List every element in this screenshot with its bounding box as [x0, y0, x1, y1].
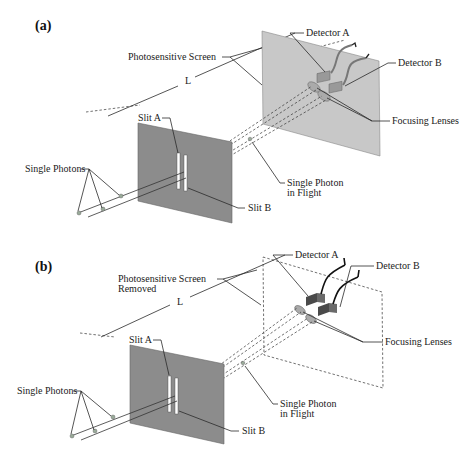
screen-leader-2 [223, 279, 261, 305]
detector-b-label: Detector B [376, 260, 420, 271]
photon-in-flight-label-2: in Flight [287, 187, 321, 198]
distance-label: L [177, 296, 183, 307]
detector-a-label: Detector A [295, 249, 339, 260]
photons-leader-1 [78, 169, 89, 211]
detector-a [306, 258, 345, 306]
lens-leader-2 [314, 321, 363, 342]
panel-a-label: (a) [35, 18, 52, 34]
distance-guide-left [80, 333, 115, 337]
photon-in-flight-label-2: in Flight [280, 408, 314, 419]
slit-a [177, 153, 180, 189]
detector-a-leader [273, 255, 308, 296]
slit-b-label: Slit B [242, 425, 265, 436]
focusing-lens-a [293, 304, 307, 317]
panel-a: (a) L Photosensitive Screen Detector A D… [25, 18, 459, 223]
slit-b [175, 378, 178, 414]
detector-b-label: Detector B [398, 57, 442, 68]
panel-b: (b) L Photosensitive Screen Removed Dete… [17, 249, 452, 444]
photons-leader-1 [71, 391, 81, 434]
photon-3 [111, 415, 115, 419]
photosensitive-screen-label-2: Removed [118, 283, 156, 294]
slit-a [168, 376, 171, 412]
screen-leader-1 [217, 270, 257, 279]
single-photons-label: Single Photons [17, 385, 77, 396]
photon-1 [70, 434, 74, 438]
slit-a-label: Slit A [129, 334, 153, 345]
screen-leader-2 [230, 57, 262, 85]
distance-arrow-left [101, 305, 170, 337]
removed-screen-outline [263, 257, 383, 388]
detector-b [318, 270, 359, 316]
double-slit-diagram: (a) L Photosensitive Screen Detector A D… [0, 0, 474, 458]
photon-in-flight-leader [245, 366, 278, 404]
photosensitive-screen-label: Photosensitive Screen [128, 51, 216, 62]
photon-in-flight-leader [252, 142, 285, 183]
photon-in-flight [241, 361, 245, 365]
slit-b [184, 155, 187, 191]
screen-leader-1 [222, 48, 262, 57]
slit-b-label: Slit B [248, 202, 271, 213]
focusing-lenses-label: Focusing Lenses [392, 115, 459, 126]
detector-a-label: Detector A [306, 27, 350, 38]
detector-b-leader [340, 266, 374, 307]
distance-label: L [185, 75, 191, 86]
slit-a-label: Slit A [138, 112, 162, 123]
focusing-lenses-label: Focusing Lenses [385, 336, 452, 347]
single-photons-label: Single Photons [25, 163, 85, 174]
photon-in-flight [248, 137, 252, 141]
photon-1 [77, 211, 81, 215]
lens-leader-1 [303, 312, 383, 342]
photon-3 [119, 194, 123, 198]
panel-b-label: (b) [35, 259, 52, 275]
